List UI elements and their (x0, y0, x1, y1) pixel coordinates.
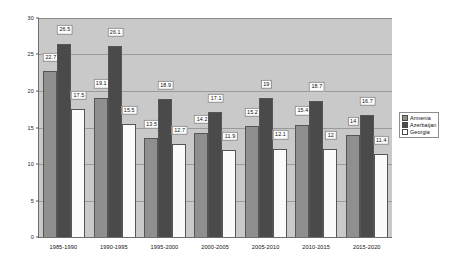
legend-item[interactable]: Armenia (402, 115, 436, 121)
bar-group: 22.726.517.5 (39, 18, 89, 237)
bar-value-label: 17.5 (71, 91, 87, 100)
bar[interactable] (309, 101, 323, 238)
bar-group: 19.126.115.5 (89, 18, 139, 237)
bar[interactable] (194, 133, 208, 237)
bar-group: 15.21912.1 (241, 18, 291, 237)
bar-slot: 11.9 (222, 18, 236, 237)
bar-slot: 26.1 (108, 18, 122, 237)
bar-slot: 14.2 (194, 18, 208, 237)
bar[interactable] (346, 135, 360, 237)
bar[interactable] (43, 71, 57, 237)
bar[interactable] (108, 46, 122, 237)
bar[interactable] (323, 149, 337, 237)
legend-label: Armenia (410, 115, 431, 121)
bar-value-label: 12.1 (273, 130, 289, 139)
bar[interactable] (245, 126, 259, 237)
bar-slot: 17.1 (208, 18, 222, 237)
x-axis-tick-label: 2005-2010 (240, 244, 291, 250)
bar-slot: 15.2 (245, 18, 259, 237)
bar-slot: 18.9 (158, 18, 172, 237)
bar-slot: 11.4 (374, 18, 388, 237)
bar[interactable] (222, 150, 236, 237)
bar-value-label: 12.7 (172, 126, 188, 135)
bar-value-label: 15.5 (121, 105, 137, 114)
legend-swatch-icon (402, 122, 408, 128)
x-axis-tick-label: 2015-2020 (341, 244, 392, 250)
bar-slot: 12.7 (172, 18, 186, 237)
bar[interactable] (158, 99, 172, 237)
bar[interactable] (208, 112, 222, 237)
bar[interactable] (71, 109, 85, 237)
bar[interactable] (374, 154, 388, 237)
bar-slot: 15.5 (122, 18, 136, 237)
bar-value-label: 11.4 (374, 135, 390, 144)
bar-groups: 22.726.517.519.126.115.513.518.912.714.2… (39, 18, 392, 237)
legend-item[interactable]: Azerbaijan (402, 122, 436, 128)
legend-item[interactable]: Georgia (402, 129, 436, 135)
bar-slot: 12 (323, 18, 337, 237)
bar-group: 1416.711.4 (342, 18, 392, 237)
bar-group: 14.217.111.9 (190, 18, 240, 237)
bar[interactable] (172, 144, 186, 237)
bar-group: 13.518.912.7 (140, 18, 190, 237)
bar-slot: 14 (346, 18, 360, 237)
bar-value-label: 14 (348, 116, 359, 125)
bar-slot: 19.1 (94, 18, 108, 237)
bar-value-label: 12 (325, 131, 336, 140)
bar[interactable] (295, 125, 309, 237)
bar-slot: 12.1 (273, 18, 287, 237)
x-axis-labels: 1985-19901990-19951995-20002000-20052005… (38, 244, 392, 250)
bar[interactable] (144, 138, 158, 237)
bar-slot: 13.5 (144, 18, 158, 237)
bar-slot: 17.5 (71, 18, 85, 237)
bar-slot: 16.7 (360, 18, 374, 237)
bar-value-label: 19 (261, 80, 272, 89)
bar[interactable] (259, 98, 273, 237)
bar-chart: 051015202530 22.726.517.519.126.115.513.… (0, 0, 460, 267)
bar[interactable] (273, 149, 287, 237)
bar[interactable] (57, 44, 71, 237)
bar-slot: 26.5 (57, 18, 71, 237)
bar-group: 15.418.712 (291, 18, 341, 237)
legend-label: Azerbaijan (410, 122, 436, 128)
x-axis-tick-label: 1985-1990 (38, 244, 89, 250)
x-axis-tick-label: 2000-2005 (190, 244, 241, 250)
x-axis-tick-label: 1990-1995 (89, 244, 140, 250)
bar-slot: 19 (259, 18, 273, 237)
chart-legend: ArmeniaAzerbaijanGeorgia (399, 112, 439, 138)
legend-label: Georgia (410, 129, 430, 135)
plot-area: 051015202530 22.726.517.519.126.115.513.… (38, 18, 392, 238)
bar-slot: 18.7 (309, 18, 323, 237)
legend-swatch-icon (402, 129, 408, 135)
bar[interactable] (122, 124, 136, 237)
bar-slot: 15.4 (295, 18, 309, 237)
legend-swatch-icon (402, 115, 408, 121)
bar[interactable] (94, 98, 108, 237)
bar-value-label: 11.9 (222, 132, 238, 141)
bar-slot: 22.7 (43, 18, 57, 237)
bar[interactable] (360, 115, 374, 237)
x-axis-tick-label: 1995-2000 (139, 244, 190, 250)
x-axis-tick-label: 2010-2015 (291, 244, 342, 250)
